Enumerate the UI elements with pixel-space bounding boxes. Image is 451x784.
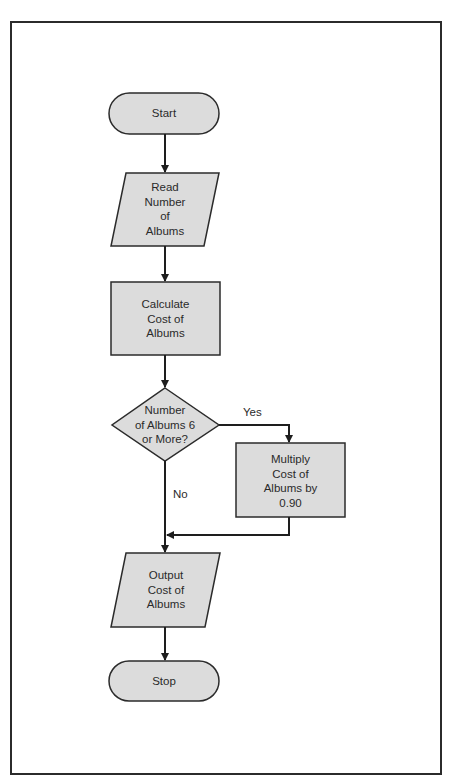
arrow-multiply-return [167,517,289,535]
output-label: Output Cost of Albums [116,568,216,612]
calculate-label: Calculate Cost of Albums [111,297,220,341]
yes-edge-label: Yes [243,406,262,418]
flowchart-canvas: Start Read Number of Albums Calculate Co… [0,0,451,784]
flowchart-graphics [0,0,451,784]
no-edge-label: No [173,488,188,500]
multiply-label: Multiply Cost of Albums by 0.90 [236,452,345,510]
read-label: Read Number of Albums [115,180,215,238]
stop-label: Stop [109,674,219,689]
start-label: Start [109,106,219,121]
arrow-yes-to-multiply [219,425,289,442]
decision-label: Number of Albums 6 or More? [120,403,210,447]
